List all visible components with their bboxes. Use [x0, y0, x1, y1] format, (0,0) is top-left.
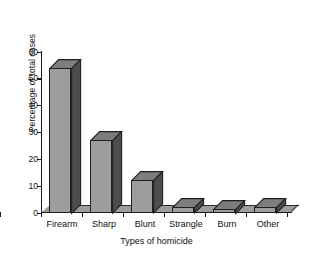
y-tick-label: 10 — [18, 182, 38, 191]
x-axis-label: Types of homicide — [0, 236, 313, 246]
bar-front-face — [49, 68, 71, 213]
y-tick-label: 60 — [18, 48, 38, 57]
x-tick-mark — [123, 212, 124, 217]
bar-burn — [213, 200, 244, 213]
y-tick-label: 40 — [18, 101, 38, 110]
x-tick-mark — [164, 212, 165, 217]
x-tick-mark — [287, 212, 288, 217]
y-axis-tick-labels: 60 50 40 30 20 10 0 — [16, 0, 38, 256]
y-tick-mark — [37, 52, 42, 53]
y-tick-mark — [37, 159, 42, 160]
bar-blunt — [131, 171, 162, 212]
bar-sharp — [90, 131, 121, 212]
bar-side-face — [235, 200, 246, 215]
y-tick-label: 50 — [18, 74, 38, 83]
bar-strangle — [172, 198, 203, 212]
bar-chart: Percentage of total cases 60 50 40 30 20… — [0, 0, 313, 256]
bar-side-face — [153, 171, 164, 214]
chart-floor-right-edge — [290, 204, 300, 214]
bar-side-face — [194, 198, 205, 214]
bar-front-face — [90, 140, 112, 212]
bar-front-face — [213, 209, 235, 213]
x-tick-mark — [205, 212, 206, 217]
y-tick-label: 20 — [18, 155, 38, 164]
bar-front-face — [254, 207, 276, 212]
y-tick-label: 0 — [18, 209, 38, 218]
bar-front-face — [131, 180, 153, 212]
bar-side-face — [276, 198, 287, 214]
bar-side-face — [112, 131, 123, 214]
y-tick-mark — [37, 78, 42, 79]
x-tick-mark — [41, 212, 42, 217]
y-tick-mark — [37, 105, 42, 106]
y-tick-mark — [37, 132, 42, 133]
y-tick-mark — [37, 186, 42, 187]
bar-firearm — [49, 59, 80, 213]
x-tick-mark — [82, 212, 83, 217]
x-category-label-other: Other — [238, 219, 298, 229]
x-tick-mark — [246, 212, 247, 217]
y-tick-label: 30 — [18, 128, 38, 137]
bar-front-face — [172, 207, 194, 212]
bar-side-face — [71, 59, 82, 215]
bar-other — [254, 198, 285, 212]
